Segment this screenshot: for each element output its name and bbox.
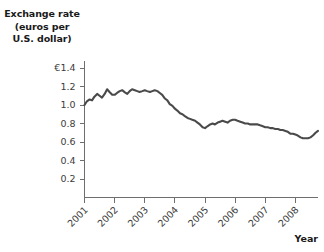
y-tick-label: €1.4 [54, 62, 75, 73]
exchange-rate-line [85, 89, 319, 138]
x-tick-label: 2005 [186, 204, 211, 229]
x-tick-label: 2001 [65, 204, 90, 229]
y-axis-ticks: 0.20.40.60.81.01.2€1.4 [54, 62, 84, 184]
y-tick-label: 0.6 [60, 136, 75, 147]
y-tick-label: 0.2 [60, 173, 75, 184]
y-tick-label: 1.2 [60, 81, 75, 92]
x-tick-label: 2007 [246, 204, 271, 229]
y-tick-label: 0.4 [60, 155, 75, 166]
x-axis-ticks: 20012002200320042005200620072008 [65, 198, 301, 230]
x-tick-label: 2004 [155, 204, 180, 229]
x-tick-label: 2002 [95, 204, 120, 229]
y-tick-label: 0.8 [60, 118, 75, 129]
exchange-rate-chart-figure: Exchange rate (euros per U.S. dollar) Ye… [0, 0, 324, 252]
y-tick-label: 1.0 [60, 99, 75, 110]
x-tick-label: 2003 [125, 204, 150, 229]
x-tick-label: 2008 [276, 204, 301, 229]
plot-area: 0.20.40.60.81.01.2€1.4 20012002200320042… [0, 0, 324, 252]
x-tick-label: 2006 [216, 204, 241, 229]
